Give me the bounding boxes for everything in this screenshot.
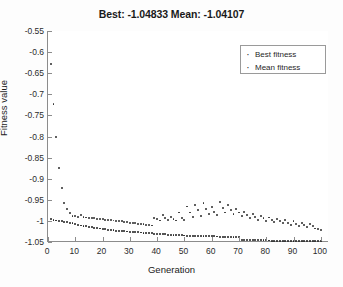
data-point — [290, 240, 292, 242]
data-point — [104, 219, 106, 221]
data-point — [301, 222, 303, 224]
data-point — [91, 217, 93, 219]
data-point — [265, 220, 267, 222]
data-point — [53, 219, 55, 221]
data-point — [205, 235, 207, 237]
data-point — [167, 219, 169, 221]
data-point — [186, 206, 188, 208]
data-point — [164, 233, 166, 235]
data-point — [140, 232, 142, 234]
y-tick-label: -0.85 — [2, 153, 44, 163]
y-tick-mark — [48, 115, 52, 116]
data-point — [85, 225, 87, 227]
data-point — [282, 222, 284, 224]
data-point — [102, 228, 104, 230]
data-point — [173, 218, 175, 220]
data-point — [287, 240, 289, 242]
data-point — [137, 223, 139, 225]
data-point — [312, 225, 314, 227]
data-point — [249, 239, 251, 241]
x-tick-mark — [294, 237, 295, 241]
data-point — [303, 224, 305, 226]
data-point — [284, 240, 286, 242]
data-point — [58, 167, 60, 169]
x-axis-label: Generation — [0, 264, 343, 275]
data-point — [151, 225, 153, 227]
y-tick-label: -0.6 — [2, 47, 44, 57]
y-tick-mark — [48, 94, 52, 95]
data-point — [50, 218, 52, 220]
data-point — [273, 221, 275, 223]
data-point — [290, 224, 292, 226]
data-point — [156, 218, 158, 220]
data-point — [121, 230, 123, 232]
data-point — [192, 216, 194, 218]
data-point — [224, 212, 226, 214]
data-point — [189, 235, 191, 237]
data-point — [219, 236, 221, 238]
data-point — [145, 224, 147, 226]
data-point — [298, 240, 300, 242]
data-point — [80, 214, 82, 216]
data-point — [118, 220, 120, 222]
data-point — [55, 136, 57, 138]
y-tick-mark — [48, 73, 52, 74]
y-tick-label: -0.95 — [2, 195, 44, 205]
data-point — [162, 214, 164, 216]
data-point — [167, 234, 169, 236]
data-point — [134, 231, 136, 233]
data-point — [74, 215, 76, 217]
x-tick-mark — [130, 237, 131, 241]
data-point — [279, 220, 281, 222]
data-point — [227, 204, 229, 206]
data-point — [55, 220, 57, 222]
data-point — [118, 230, 120, 232]
data-point — [260, 239, 262, 241]
data-point — [175, 220, 177, 222]
data-point — [69, 212, 71, 214]
data-point — [162, 233, 164, 235]
data-point — [61, 187, 63, 189]
data-point — [268, 217, 270, 219]
legend-item[interactable]: ·Mean fitness — [241, 61, 327, 74]
data-point — [153, 217, 155, 219]
data-point — [252, 213, 254, 215]
data-point — [123, 230, 125, 232]
data-point — [263, 239, 265, 241]
data-point — [159, 220, 161, 222]
data-point — [241, 215, 243, 217]
y-tick-mark — [48, 179, 52, 180]
legend: ·Best fitness·Mean fitness — [240, 45, 326, 74]
data-point — [88, 226, 90, 228]
legend-label: Best fitness — [255, 50, 296, 59]
data-point — [126, 231, 128, 233]
data-point — [241, 239, 243, 241]
y-tick-mark — [48, 31, 52, 32]
x-tick-mark — [48, 237, 49, 241]
data-point — [276, 218, 278, 220]
data-point — [113, 229, 115, 231]
data-point — [233, 236, 235, 238]
data-point — [211, 206, 213, 208]
data-point — [243, 211, 245, 213]
data-point — [107, 229, 109, 231]
data-point — [233, 213, 235, 215]
data-point — [200, 215, 202, 217]
data-point — [107, 219, 109, 221]
data-point — [126, 221, 128, 223]
x-tick-label: 40 — [151, 246, 160, 256]
y-tick-label: -1 — [2, 216, 44, 226]
data-point — [219, 201, 221, 203]
data-point — [271, 219, 273, 221]
x-tick-label: 0 — [45, 246, 50, 256]
x-tick-label: 80 — [261, 246, 270, 256]
data-point — [181, 234, 183, 236]
data-point — [295, 240, 297, 242]
legend-item[interactable]: ·Best fitness — [241, 48, 327, 61]
x-tick-mark — [212, 237, 213, 241]
data-point — [69, 222, 71, 224]
data-point — [143, 223, 145, 225]
x-tick-mark — [103, 237, 104, 241]
data-point — [178, 212, 180, 214]
data-point — [186, 235, 188, 237]
